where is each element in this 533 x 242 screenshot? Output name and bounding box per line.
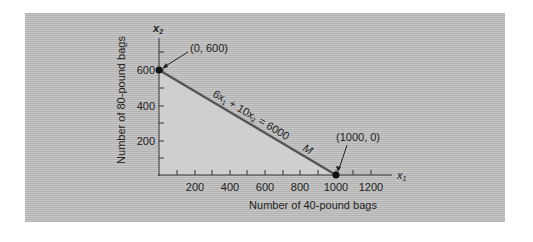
x-axis-label: Number of 40-pound bags (249, 199, 377, 211)
svg-text:800: 800 (291, 181, 309, 193)
svg-text:1000: 1000 (324, 181, 348, 193)
arrow-1000-0 (339, 145, 347, 169)
y-axis-symbol: x2 (152, 22, 163, 35)
y-tick-labels: 600 400 200 (137, 64, 155, 147)
arrowhead-icon (162, 63, 168, 69)
y-axis-label: Number of 80-pound bags (115, 36, 127, 164)
label-point-1000-0: (1000, 0) (336, 131, 380, 143)
point-1000-0 (333, 172, 340, 179)
arrowhead-icon (336, 166, 341, 172)
point-0-600 (156, 67, 163, 74)
x-axis-symbol: x1 (396, 169, 407, 182)
svg-text:600: 600 (137, 64, 155, 76)
svg-text:200: 200 (137, 135, 155, 147)
label-point-0-600: (0, 600) (190, 42, 228, 54)
x-tick-labels: 200 400 600 800 1000 1200 (186, 181, 383, 193)
arrow-0-600 (164, 52, 188, 67)
svg-text:400: 400 (137, 100, 155, 112)
svg-text:200: 200 (186, 181, 204, 193)
svg-text:600: 600 (256, 181, 274, 193)
chart-svg: 600 400 200 200 400 600 800 1000 1200 x2… (0, 0, 533, 242)
svg-text:1200: 1200 (359, 181, 383, 193)
svg-text:400: 400 (221, 181, 239, 193)
